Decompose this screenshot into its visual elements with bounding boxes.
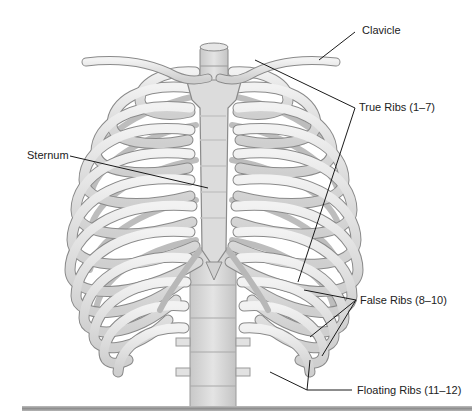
bottom-divider-bar: [22, 406, 472, 411]
label-clavicle: Clavicle: [362, 24, 401, 36]
label-false-ribs: False Ribs (8–10): [360, 294, 447, 306]
leader-clavicle: [319, 32, 355, 60]
label-floating-ribs: Floating Ribs (11–12): [357, 384, 461, 396]
label-true-ribs: True Ribs (1–7): [359, 101, 435, 113]
label-sternum: Sternum: [27, 149, 69, 161]
rib-cage-illustration: [0, 0, 472, 418]
